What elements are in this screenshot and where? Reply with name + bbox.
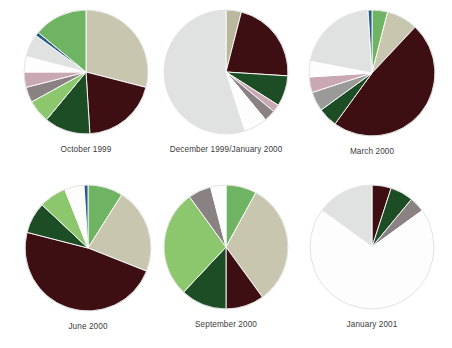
chart-cell-january-2001: January 2001 (298, 183, 446, 329)
pie-svg (308, 183, 436, 311)
pie-chart-september-2000 (162, 183, 290, 311)
chart-caption: March 2000 (350, 147, 394, 156)
pie-svg (307, 8, 437, 138)
chart-caption: September 2000 (195, 320, 257, 329)
chart-cell-march-2000: March 2000 (298, 8, 446, 156)
chart-cell-june-2000: June 2000 (14, 183, 162, 331)
pie-chart-figure: October 1999 December 1999/January 2000 … (0, 0, 452, 348)
pie-svg (162, 8, 290, 136)
chart-cell-october-1999: October 1999 (12, 8, 160, 154)
pie-svg (162, 183, 290, 311)
pie-chart-december-1999-january-2000 (162, 8, 290, 136)
chart-cell-december-1999-january-2000: December 1999/January 2000 (152, 8, 300, 154)
chart-cell-september-2000: September 2000 (152, 183, 300, 329)
pie-svg (22, 8, 150, 136)
pie-chart-june-2000 (23, 183, 153, 313)
pie-svg (23, 183, 153, 313)
chart-caption: December 1999/January 2000 (170, 145, 283, 154)
chart-caption: June 2000 (68, 322, 107, 331)
pie-chart-october-1999 (22, 8, 150, 136)
pie-chart-march-2000 (307, 8, 437, 138)
chart-caption: January 2001 (347, 320, 398, 329)
pie-chart-january-2001 (308, 183, 436, 311)
chart-caption: October 1999 (61, 145, 112, 154)
